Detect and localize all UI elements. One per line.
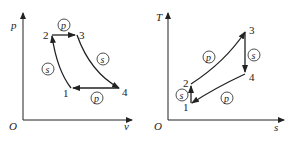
svg-text:s: s [46,64,50,75]
svg-text:p: p [205,52,211,63]
svg-text:s: s [101,54,105,65]
pv-point-2: 2 [43,29,49,41]
pv-y-axis-label: p [10,19,17,31]
ts-x-axis-label: s [274,121,278,133]
ts-point-4: 4 [249,71,255,83]
svg-text:p: p [60,20,66,31]
ts-y-axis-label: T [156,11,163,23]
svg-text:s: s [180,90,184,101]
ts-point-2: 2 [183,77,189,89]
ts-label-s-right: s [248,49,260,61]
pv-label-p-top: p [58,19,70,31]
ts-label-p-bottom: p [221,92,233,104]
svg-text:p: p [223,93,229,104]
pv-process-1-2 [52,36,71,88]
pv-process-3-4 [77,35,119,88]
pv-x-axis-label: v [124,120,129,132]
pv-label-p-bottom: p [91,92,103,104]
svg-text:p: p [93,93,99,104]
ts-point-3: 3 [249,24,255,36]
pv-diagram: p O v 2 3 4 1 p s s p [9,13,132,132]
svg-text:s: s [252,50,256,61]
pv-label-s-right: s [97,53,109,65]
pv-point-4: 4 [122,86,128,98]
pv-origin-label: O [9,120,17,132]
pv-point-1: 1 [63,87,69,99]
cycle-diagrams: p O v 2 3 4 1 p s s p [0,0,293,141]
pv-point-3: 3 [79,29,85,41]
ts-point-1: 1 [183,101,189,113]
ts-label-s-left: s [176,89,188,101]
ts-origin-label: O [154,120,162,132]
ts-label-p-top: p [203,51,215,63]
pv-label-s-left: s [42,63,54,75]
ts-process-2-3 [191,32,245,84]
ts-diagram: T O s 3 4 2 1 p s s p [154,11,284,133]
